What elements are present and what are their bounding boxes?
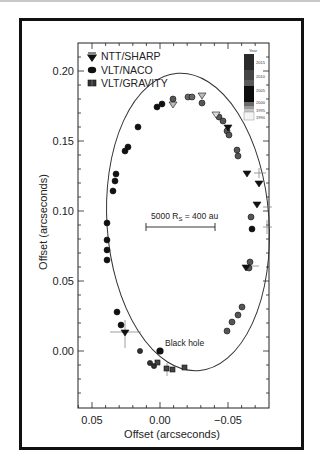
colorbar-tick: 2015 bbox=[256, 60, 266, 65]
vlt-gravity-points bbox=[155, 360, 187, 372]
scale-bar: 5000 RS = 400 au bbox=[146, 211, 218, 231]
y-tick-label: 0.05 bbox=[53, 275, 74, 287]
colorbar-title: Year bbox=[249, 48, 258, 53]
y-tick-label: 0.20 bbox=[53, 65, 74, 77]
x-tick-label: −0.05 bbox=[214, 414, 242, 426]
y-tick-label: 0.10 bbox=[53, 205, 74, 217]
colorbar-tick: 2005 bbox=[256, 88, 266, 93]
x-tick-label: 0.05 bbox=[81, 414, 102, 426]
triangle-down-icon bbox=[88, 53, 96, 61]
orbit-chart: 0.05 0.00 −0.05 0.20 0.15 0.10 0.05 0.00… bbox=[0, 0, 320, 466]
year-colorbar: Year 2015 2010 2005 2000 1995 1990 bbox=[244, 48, 266, 120]
legend: NTT/SHARP VLT/NACO VLT/GRAVITY bbox=[88, 50, 168, 89]
black-hole-label: Black hole bbox=[165, 338, 204, 348]
colorbar-tick: 1995 bbox=[256, 108, 266, 113]
x-tick-label: 0.00 bbox=[149, 414, 170, 426]
y-axis-title: Offset (arcseconds) bbox=[37, 174, 49, 270]
y-tick-label: 0.00 bbox=[53, 345, 74, 357]
vlt-naco-points bbox=[104, 94, 255, 369]
y-tick-label: 0.15 bbox=[53, 135, 74, 147]
colorbar-tick: 2010 bbox=[256, 74, 266, 79]
scale-bar-label: 5000 RS = 400 au bbox=[151, 211, 218, 222]
x-axis-title: Offset (arcseconds) bbox=[124, 428, 220, 440]
legend-label: NTT/SHARP bbox=[101, 50, 161, 62]
legend-label: VLT/NACO bbox=[101, 64, 153, 76]
legend-label: VLT/GRAVITY bbox=[101, 77, 168, 89]
colorbar-tick: 2000 bbox=[256, 100, 266, 105]
black-hole-marker bbox=[156, 347, 163, 354]
colorbar-tick: 1990 bbox=[256, 115, 266, 120]
circle-marker-icon bbox=[88, 67, 96, 74]
